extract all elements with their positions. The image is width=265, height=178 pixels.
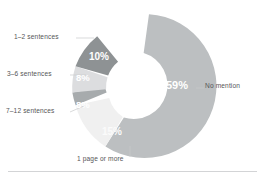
value-label-7-12-sentences: 8% [76,100,90,110]
category-label-1-2-sentences: 1–2 sentences [14,34,59,41]
category-label-one-page-or-more: 1 page or more [77,156,124,163]
donut-slices [72,14,216,158]
value-label-3-6-sentences: 8% [76,73,90,83]
value-label-one-page-or-more: 15% [102,127,122,137]
category-label-no-mention: No mention [205,83,240,90]
bottom-divider-rule [8,171,257,172]
value-label-no-mention: 59% [166,80,188,91]
category-label-7-12-sentences: 7–12 sentences [6,108,54,115]
category-label-3-6-sentences: 3–6 sentences [7,71,52,78]
value-label-1-2-sentences: 10% [89,52,109,62]
donut-chart-figure: 1–2 sentences 3–6 sentences 7–12 sentenc… [0,0,265,178]
slice-no-mention[interactable] [105,14,216,158]
